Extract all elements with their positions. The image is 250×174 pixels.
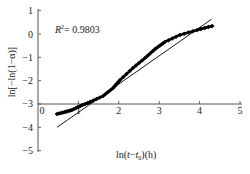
y-tick-label: −3 <box>22 98 33 109</box>
y-tick-label: −2 <box>22 75 33 86</box>
x-tick-label: 2 <box>116 105 121 116</box>
y-tick-label: −1 <box>22 52 33 63</box>
x-tick-label: 0 <box>40 105 45 116</box>
x-ticks: 012345 <box>40 101 243 116</box>
y-axis-title: ln[−ln(1−α)] <box>6 47 18 97</box>
y-tick-label: −4 <box>22 122 33 133</box>
x-tick-label: 3 <box>157 105 162 116</box>
x-tick-label: 4 <box>197 105 202 116</box>
chart: 10−1−2−3−4−5 012345 R2= 0.9803 ln(t−t0)(… <box>0 0 250 174</box>
y-tick-label: −5 <box>22 145 33 156</box>
y-tick-label: 1 <box>28 5 33 16</box>
x-tick-label: 5 <box>238 105 243 116</box>
data-curve <box>57 26 212 114</box>
y-tick-label: 0 <box>28 29 33 40</box>
r-squared-annotation: R2= 0.9803 <box>54 24 100 35</box>
x-axis-title: ln(t−t0)(h) <box>116 149 156 161</box>
fit-line <box>57 19 212 127</box>
